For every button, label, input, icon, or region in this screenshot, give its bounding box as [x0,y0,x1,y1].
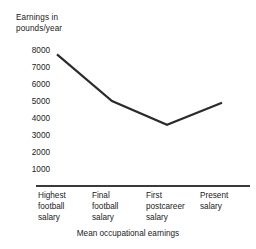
x-axis-tick-label: First postcareer salary [144,190,198,224]
y-axis-title: Earnings in pounds/year [16,12,62,34]
y-axis-tick-labels: 8000 7000 6000 5000 4000 3000 2000 1000 [14,44,50,186]
y-axis-tick-label: 2000 [32,148,50,157]
data-series-line [57,54,222,125]
y-axis-tick-label: 7000 [32,63,50,72]
y-axis-tick-label: 5000 [32,97,50,106]
y-axis-tick-label: 3000 [32,131,50,140]
y-axis-tick-label: 8000 [32,46,50,55]
x-axis-line [36,185,250,187]
x-axis-tick-label: Present salary [198,190,252,224]
x-axis-tick-label: Highest football salary [36,190,90,224]
y-axis-tick-label: 1000 [32,165,50,174]
x-axis-category-labels: Highest football salary Final football s… [36,190,252,224]
line-chart: Earnings in pounds/year 8000 7000 6000 5… [0,0,256,249]
x-axis-title: Mean occupational earnings [0,229,256,239]
y-axis-tick-label: 4000 [32,114,50,123]
y-axis-tick-label: 6000 [32,80,50,89]
x-axis-tick-label: Final football salary [90,190,144,224]
